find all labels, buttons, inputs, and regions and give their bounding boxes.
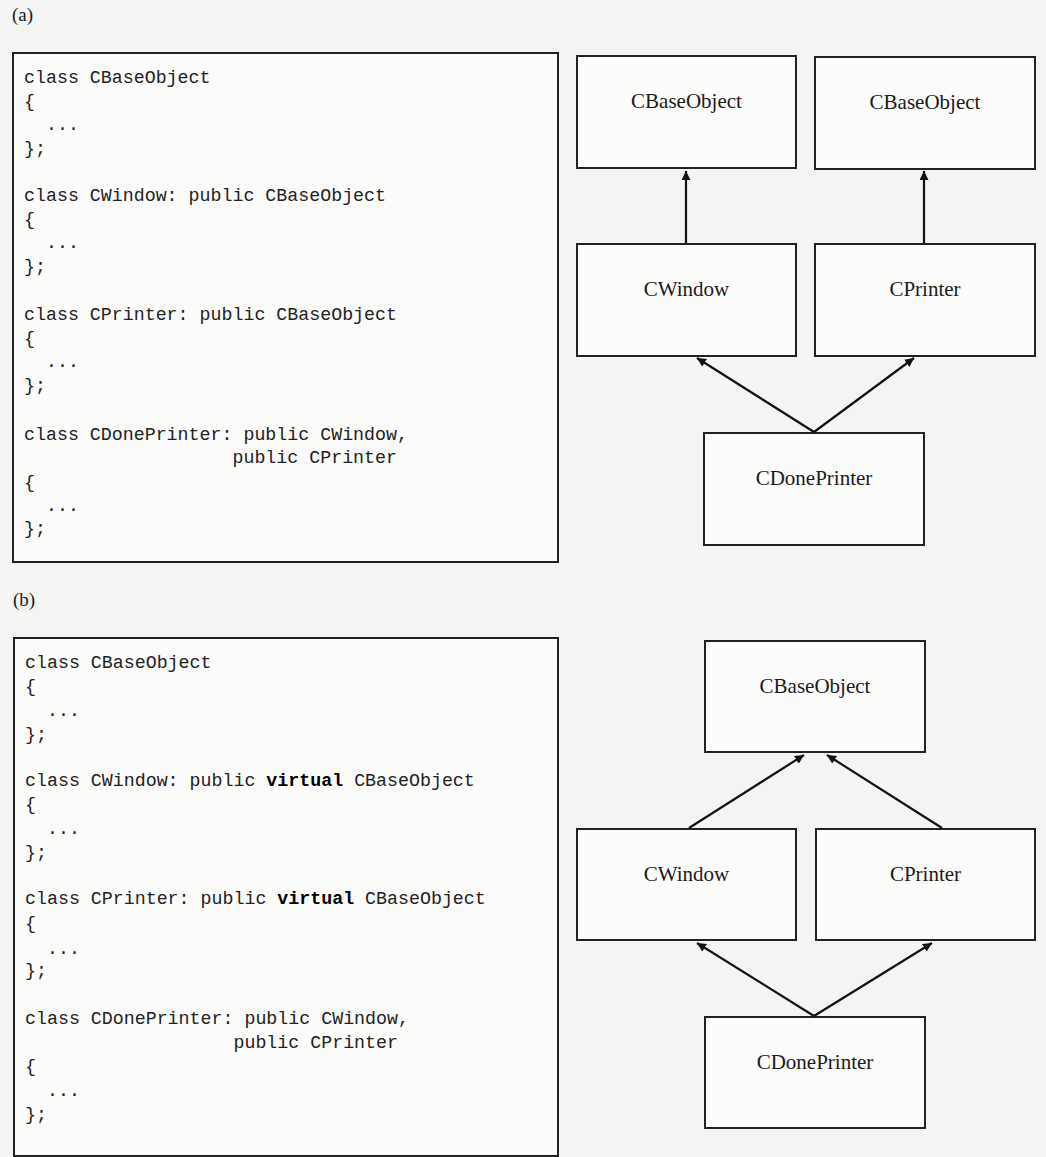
code-line: { bbox=[24, 328, 35, 350]
code-line: { bbox=[24, 472, 35, 494]
code-line: class CWindow: public virtual CBaseObjec… bbox=[25, 770, 475, 792]
code-line: { bbox=[25, 913, 36, 935]
code-line: }; bbox=[25, 960, 47, 982]
code-line: ... bbox=[25, 938, 80, 960]
uml-class-cdoneprinter: CDonePrinter bbox=[704, 1016, 926, 1129]
code-line: { bbox=[25, 1056, 36, 1078]
code-line: class CBaseObject bbox=[24, 67, 211, 89]
code-line: public CPrinter bbox=[24, 447, 397, 469]
arrow-cdoneprinter-to-cprinter bbox=[814, 358, 914, 432]
code-line: public CPrinter bbox=[25, 1032, 398, 1054]
code-line: class CPrinter: public virtual CBaseObje… bbox=[25, 888, 486, 910]
code-line: ... bbox=[25, 700, 80, 722]
uml-class-cwindow: CWindow bbox=[576, 243, 797, 357]
uml-class-cdoneprinter: CDonePrinter bbox=[703, 432, 925, 546]
code-line: ... bbox=[24, 495, 79, 517]
code-listing-b: class CBaseObject { ... }; class CWindow… bbox=[13, 637, 559, 1157]
class-name: CBaseObject bbox=[706, 674, 924, 699]
panel-label-a: (a) bbox=[12, 4, 33, 26]
code-line: ... bbox=[24, 114, 79, 136]
class-name: CBaseObject bbox=[578, 89, 795, 114]
code-line: ... bbox=[24, 351, 79, 373]
code-line: }; bbox=[24, 518, 46, 540]
class-name: CPrinter bbox=[817, 862, 1034, 887]
class-name: CPrinter bbox=[816, 277, 1034, 302]
panel-label-b: (b) bbox=[13, 589, 35, 611]
arrow-cdoneprinter-to-cwindow bbox=[697, 358, 814, 432]
code-line: { bbox=[24, 91, 35, 113]
uml-class-cwindow: CWindow bbox=[576, 828, 797, 941]
code-line: { bbox=[25, 794, 36, 816]
uml-class-cbaseobject-left: CBaseObject bbox=[576, 55, 797, 169]
uml-class-cprinter: CPrinter bbox=[814, 243, 1036, 357]
virtual-keyword: virtual bbox=[277, 889, 354, 909]
arrow-cdoneprinter-to-cwindow bbox=[697, 943, 814, 1016]
class-name: CWindow bbox=[578, 277, 795, 302]
code-line: }; bbox=[25, 842, 47, 864]
arrow-cprinter-to-cbaseobject bbox=[827, 755, 942, 828]
code-line: ... bbox=[25, 818, 80, 840]
virtual-keyword: virtual bbox=[266, 771, 343, 791]
arrow-cdoneprinter-to-cprinter bbox=[814, 943, 932, 1016]
uml-class-cbaseobject: CBaseObject bbox=[704, 640, 926, 753]
code-line: ... bbox=[24, 232, 79, 254]
code-line: class CDonePrinter: public CWindow, bbox=[24, 424, 408, 446]
code-line: }; bbox=[25, 1104, 47, 1126]
class-name: CWindow bbox=[578, 862, 795, 887]
code-line: }; bbox=[25, 724, 47, 746]
class-name: CDonePrinter bbox=[706, 1050, 924, 1075]
code-line: }; bbox=[24, 375, 46, 397]
class-name: CBaseObject bbox=[816, 90, 1034, 115]
code-line: class CWindow: public CBaseObject bbox=[24, 185, 386, 207]
code-line: class CBaseObject bbox=[25, 652, 212, 674]
arrow-cwindow-to-cbaseobject bbox=[689, 755, 804, 828]
code-line: }; bbox=[24, 256, 46, 278]
code-line: }; bbox=[24, 138, 46, 160]
uml-class-cbaseobject-right: CBaseObject bbox=[814, 56, 1036, 170]
code-line: class CPrinter: public CBaseObject bbox=[24, 304, 397, 326]
code-line: { bbox=[24, 209, 35, 231]
code-line: ... bbox=[25, 1080, 80, 1102]
code-line: { bbox=[25, 676, 36, 698]
code-line: class CDonePrinter: public CWindow, bbox=[25, 1008, 409, 1030]
uml-class-cprinter: CPrinter bbox=[815, 828, 1036, 941]
code-listing-a: class CBaseObject { ... }; class CWindow… bbox=[12, 52, 559, 563]
class-name: CDonePrinter bbox=[705, 466, 923, 491]
